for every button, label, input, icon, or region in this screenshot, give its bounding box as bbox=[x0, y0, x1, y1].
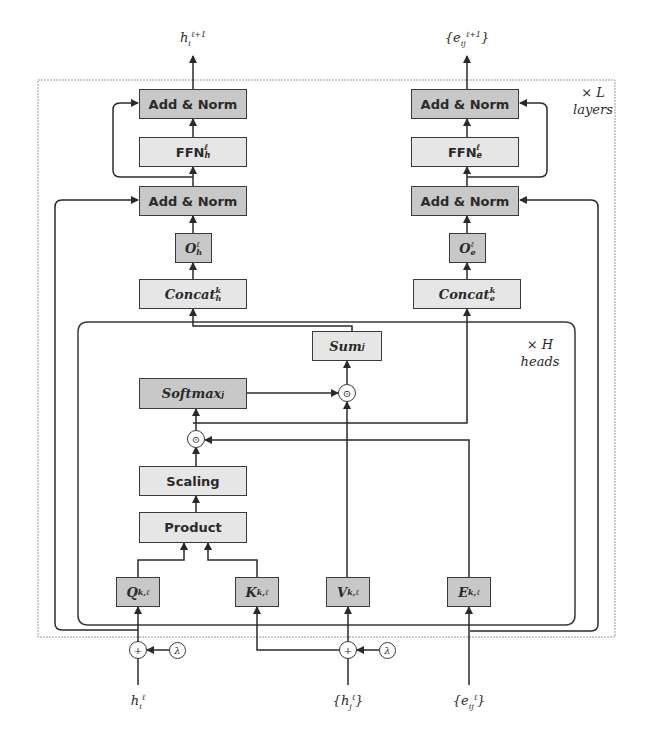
output-node-label: hiℓ+1 bbox=[173, 30, 213, 48]
plus-node-i-operator: + bbox=[129, 641, 147, 659]
lambda-nodes-j: λ bbox=[379, 642, 396, 659]
scaling-box: Scaling bbox=[139, 466, 247, 496]
output-edge-label: {eijℓ+1} bbox=[437, 30, 497, 48]
query-box: Qk,ℓ bbox=[116, 577, 160, 607]
input-node-i-label: hiℓ bbox=[118, 693, 158, 711]
node-output-projection: Oℓh bbox=[175, 233, 212, 263]
input-edges-label: {eijℓ} bbox=[444, 693, 494, 711]
input-nodes-j-label: {hjℓ} bbox=[323, 693, 373, 711]
node-concat: Concatkh bbox=[139, 279, 247, 309]
node-add-norm-bottom: Add & Norm bbox=[139, 186, 247, 216]
value-box: Vk,ℓ bbox=[326, 577, 370, 607]
softmax-box: Softmaxj bbox=[139, 378, 247, 409]
sum-box: Sumj bbox=[312, 331, 382, 361]
edge-ffn: FFNℓe bbox=[411, 137, 519, 167]
odot-sum-operator: ⊙ bbox=[338, 384, 356, 402]
wires-layer bbox=[0, 0, 649, 750]
key-box: Kk,ℓ bbox=[235, 577, 279, 607]
lambda-node-i: λ bbox=[169, 642, 186, 659]
edge-concat: Concatke bbox=[413, 279, 521, 309]
plus-nodes-j-operator: + bbox=[339, 641, 357, 659]
edge-add-norm-bottom: Add & Norm bbox=[411, 186, 519, 216]
edge-box: Ek,ℓ bbox=[447, 577, 491, 607]
heads-repeat-note: × H heads bbox=[510, 336, 570, 370]
product-box: Product bbox=[139, 512, 247, 543]
edge-add-norm-top: Add & Norm bbox=[411, 89, 519, 119]
node-add-norm-top: Add & Norm bbox=[139, 89, 247, 119]
edge-output-projection: Oℓe bbox=[449, 233, 486, 263]
odot-edge-operator: ⊙ bbox=[187, 430, 205, 448]
layers-repeat-note: × L layers bbox=[568, 84, 618, 118]
node-ffn: FFNℓh bbox=[139, 137, 247, 167]
